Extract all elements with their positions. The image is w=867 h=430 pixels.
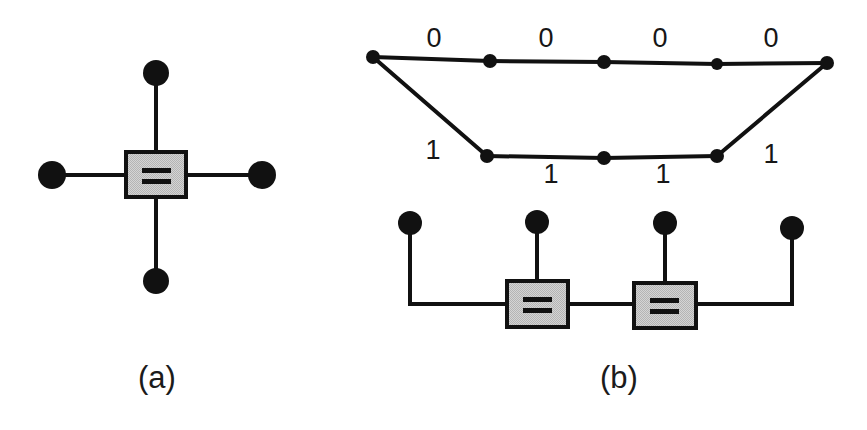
branch-label-0-d: 0 — [763, 23, 778, 53]
equality-box — [126, 152, 186, 197]
trellis-node-left-root — [366, 50, 380, 64]
panel-b-caption: (b) — [600, 360, 638, 395]
branch-label-1-left: 1 — [425, 135, 440, 165]
trellis-node-right-root — [820, 56, 834, 70]
figure-root: (a) — [0, 0, 867, 430]
trellis-branch-top-0-b — [490, 61, 604, 62]
variable-node-right — [248, 161, 276, 189]
branch-label-0-b: 0 — [538, 23, 553, 53]
variable-node-top — [143, 60, 169, 86]
branch-label-1-a: 1 — [543, 159, 558, 189]
panel-a-equality-node — [126, 152, 186, 197]
branch-label-1-b: 1 — [655, 159, 670, 189]
trellis-node-bottom-2 — [597, 151, 611, 165]
variable-node-4 — [780, 216, 804, 240]
variable-node-1 — [398, 211, 422, 235]
trellis-branch-bottom-1-b — [604, 156, 717, 158]
factor-graph-equality-box-1 — [507, 281, 568, 327]
trellis-branch-top-0-d — [717, 63, 827, 64]
equality-box — [507, 281, 568, 327]
figure-canvas: (a) — [0, 0, 867, 430]
branch-label-0-c: 0 — [652, 23, 667, 53]
equality-box — [634, 283, 696, 328]
variable-node-2 — [525, 210, 549, 234]
trellis-node-bottom-1 — [480, 149, 494, 163]
panel-a-caption: (a) — [138, 360, 176, 395]
variable-node-left — [38, 161, 66, 189]
trellis-node-bottom-3 — [710, 149, 724, 163]
branch-label-0-a: 0 — [426, 23, 441, 53]
trellis-node-top-1 — [483, 54, 497, 68]
variable-node-bottom — [143, 268, 169, 294]
trellis-branch-bottom-1-a — [487, 156, 604, 158]
variable-node-3 — [653, 211, 677, 235]
factor-graph-equality-box-2 — [634, 283, 696, 328]
trellis-node-top-2 — [597, 55, 611, 69]
trellis-node-top-3 — [711, 58, 723, 70]
branch-label-1-right: 1 — [763, 139, 778, 169]
trellis-branch-top-0-c — [604, 62, 717, 64]
